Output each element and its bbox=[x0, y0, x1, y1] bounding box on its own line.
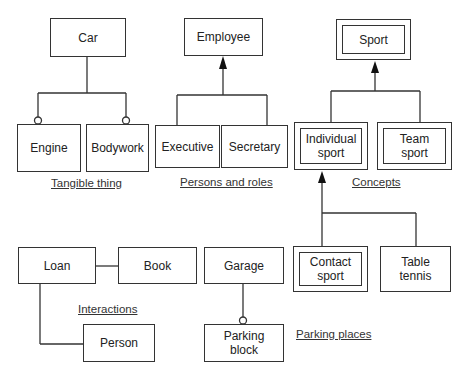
node-secretary[interactable]: Secretary bbox=[221, 125, 288, 168]
group-label-interactions: Interactions bbox=[78, 303, 137, 315]
node-contact-sport[interactable]: Contact sport bbox=[293, 246, 368, 292]
node-loan[interactable]: Loan bbox=[18, 247, 96, 284]
arrow-head-icon bbox=[219, 56, 227, 69]
node-employee[interactable]: Employee bbox=[184, 18, 263, 56]
node-label: Secretary bbox=[229, 140, 280, 154]
group-label-tangible: Tangible thing bbox=[51, 177, 122, 189]
node-sport[interactable]: Sport bbox=[336, 19, 411, 60]
node-person[interactable]: Person bbox=[83, 324, 155, 362]
node-label: Car bbox=[78, 31, 97, 45]
node-label: Table tennis bbox=[399, 255, 431, 283]
group-label-concepts: Concepts bbox=[352, 176, 401, 188]
arrow-head-icon bbox=[371, 61, 379, 73]
node-table-tennis[interactable]: Table tennis bbox=[380, 246, 451, 292]
node-label: Engine bbox=[30, 141, 67, 155]
group-label-parking: Parking places bbox=[296, 328, 371, 340]
node-label: Person bbox=[100, 336, 138, 350]
node-label: Contact sport bbox=[310, 255, 351, 283]
node-parking-block[interactable]: Parking block bbox=[204, 324, 284, 362]
node-book[interactable]: Book bbox=[118, 247, 197, 284]
node-car[interactable]: Car bbox=[50, 18, 126, 57]
arrow-head-icon bbox=[318, 171, 326, 183]
node-label: Parking block bbox=[224, 329, 265, 357]
node-label: Executive bbox=[161, 140, 213, 154]
node-label: Individual sport bbox=[306, 132, 357, 160]
node-label: Loan bbox=[44, 259, 71, 273]
node-team-sport[interactable]: Team sport bbox=[377, 122, 452, 170]
node-label: Garage bbox=[224, 259, 264, 273]
node-executive[interactable]: Executive bbox=[155, 125, 220, 168]
node-label: Employee bbox=[197, 30, 250, 44]
node-engine[interactable]: Engine bbox=[17, 124, 81, 172]
node-label: Bodywork bbox=[91, 141, 144, 155]
group-label-persons: Persons and roles bbox=[180, 176, 273, 188]
node-garage[interactable]: Garage bbox=[204, 247, 284, 284]
node-label: Sport bbox=[359, 33, 388, 47]
node-label: Book bbox=[144, 259, 171, 273]
node-label: Team sport bbox=[400, 132, 429, 160]
node-individual-sport[interactable]: Individual sport bbox=[294, 122, 368, 170]
node-bodywork[interactable]: Bodywork bbox=[86, 124, 149, 172]
